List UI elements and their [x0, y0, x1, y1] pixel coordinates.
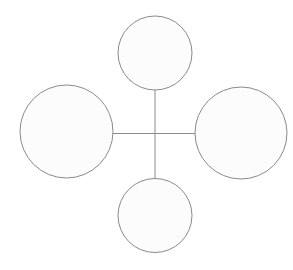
four-circles-cross-diagram: [0, 0, 293, 270]
node-circle-left: [20, 85, 113, 178]
node-circle-right: [195, 87, 287, 179]
node-circle-top: [118, 16, 192, 90]
node-circle-bottom: [118, 179, 192, 253]
diagram-canvas: [0, 0, 293, 270]
